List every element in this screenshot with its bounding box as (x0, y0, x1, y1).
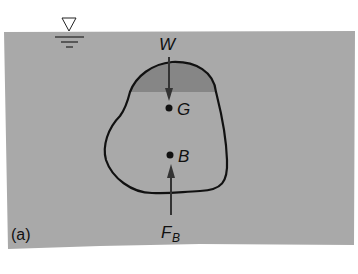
weight-label: W (159, 35, 177, 54)
center-of-gravity-label: G (177, 100, 190, 119)
center-of-buoyancy-dot (167, 152, 174, 159)
buoyant-force-subscript: B (172, 231, 180, 245)
buoyancy-diagram: W G B F B (a) (0, 0, 358, 274)
panel-label: (a) (11, 226, 31, 243)
center-of-buoyancy-label: B (178, 147, 189, 166)
center-of-gravity-dot (166, 105, 173, 112)
